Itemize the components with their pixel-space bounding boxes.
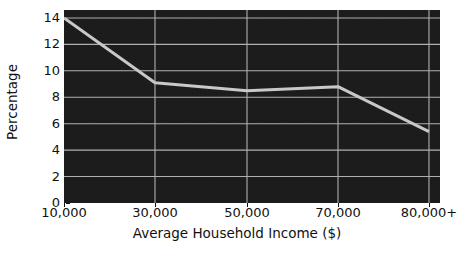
x-tick-label: 70,000 — [315, 206, 361, 220]
x-tick-label: 10,000 — [41, 206, 87, 220]
chart-figure: Percentage 02468101214 10,00030,00050,00… — [0, 0, 474, 253]
x-axis-label: Average Household Income ($) — [0, 225, 474, 241]
x-tick-label: 80,000+ — [401, 206, 457, 220]
y-tick-mark — [66, 203, 70, 204]
y-tick-label: 12 — [16, 37, 60, 50]
plot-area — [64, 10, 440, 203]
y-tick-label: 6 — [16, 117, 60, 130]
x-tick-label: 50,000 — [224, 206, 270, 220]
x-tick-mark — [247, 203, 248, 207]
y-tick-label: 10 — [16, 64, 60, 77]
x-tick-mark — [155, 203, 156, 207]
x-tick-mark — [64, 203, 65, 207]
y-tick-label: 8 — [16, 90, 60, 103]
data-line — [64, 18, 429, 132]
x-tick-label: 30,000 — [132, 206, 178, 220]
y-tick-label: 14 — [16, 11, 60, 24]
x-tick-mark — [429, 203, 430, 207]
y-tick-label: 2 — [16, 170, 60, 183]
y-tick-label: 4 — [16, 143, 60, 156]
x-tick-mark — [338, 203, 339, 207]
data-line-series — [64, 10, 440, 203]
